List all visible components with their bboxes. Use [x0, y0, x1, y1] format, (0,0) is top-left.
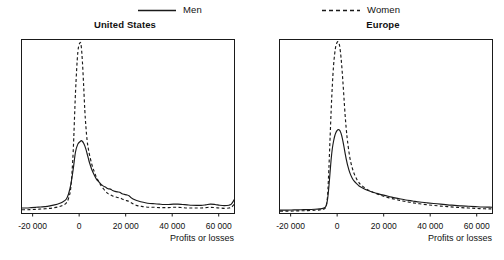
legend-label-women: Women: [367, 5, 400, 15]
x-axis-ticklabel: -20 000: [276, 220, 305, 232]
curve-men-eu: [280, 130, 493, 211]
chart-legend: Men Women: [0, 0, 504, 20]
x-axis-ticklabel: 0: [77, 220, 82, 232]
legend-line-dashed-icon: [322, 6, 360, 15]
panel-title-united-states: United States: [14, 18, 236, 31]
curve-women-us: [22, 42, 235, 209]
x-axis-ticklabel: 60 000: [206, 220, 232, 232]
x-axis-ticklabel: 40 000: [159, 220, 185, 232]
density-curves-united-states: [22, 40, 235, 214]
plot-area-united-states: [21, 39, 235, 214]
panel-title-europe: Europe: [272, 18, 494, 31]
legend-entry-men: Men: [138, 0, 202, 20]
plot-area-europe: [279, 39, 493, 214]
curve-women-eu: [280, 42, 493, 212]
panel-europe: Europe -20 000020 00040 00060 000 Profit…: [272, 18, 494, 260]
panel-united-states: United States -20 000020 00040 00060 000…: [14, 18, 236, 260]
x-axis-title-united-states: Profits or losses: [14, 232, 236, 244]
legend-label-men: Men: [183, 5, 202, 15]
x-axis-ticklabel: 20 000: [371, 220, 397, 232]
figure-two-panel-density-chart: Men Women United States -20 000020 00040…: [0, 0, 504, 260]
x-axis-ticklabel: 60 000: [464, 220, 490, 232]
x-axis-ticklabel: -20 000: [18, 220, 47, 232]
x-axis-title-europe: Profits or losses: [272, 232, 494, 244]
legend-entry-women: Women: [322, 0, 400, 20]
curve-men-us: [22, 141, 235, 208]
x-axis-ticklabel: 20 000: [113, 220, 139, 232]
legend-line-solid-icon: [138, 6, 176, 15]
density-curves-europe: [280, 40, 493, 214]
x-axis-ticklabel: 0: [335, 220, 340, 232]
x-axis-ticklabel: 40 000: [417, 220, 443, 232]
